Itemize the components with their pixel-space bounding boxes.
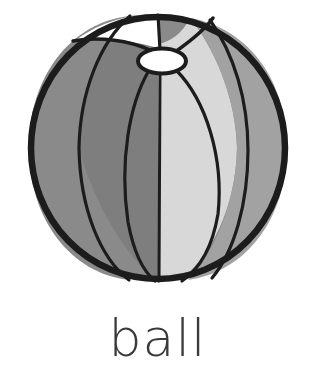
caption-area: ball <box>0 295 315 380</box>
flashcard: ball <box>0 0 315 380</box>
illustration-area <box>0 0 315 295</box>
word-label: ball <box>109 312 207 364</box>
seam-center-vertical <box>159 72 160 281</box>
beach-ball-icon <box>0 0 315 295</box>
valve-cap-icon <box>138 49 186 74</box>
